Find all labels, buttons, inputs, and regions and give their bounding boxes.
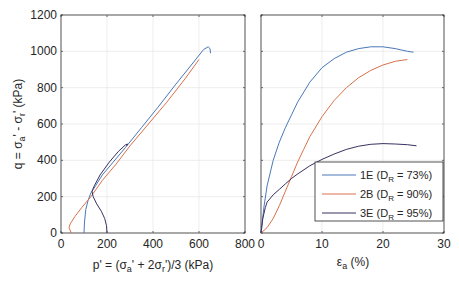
x-tick-label: 0 <box>58 237 65 251</box>
y-tick-label: 1200 <box>30 8 57 22</box>
y-tick-label: 400 <box>37 153 57 167</box>
x-tick-label: 10 <box>315 237 329 251</box>
x-tick-label: 800 <box>235 237 255 251</box>
right-x-ticks: 0102030 <box>258 237 451 251</box>
left-y-ticks: 020040060080010001200 <box>30 8 57 240</box>
x-tick-label: 30 <box>437 237 451 251</box>
y-tick-label: 800 <box>37 81 57 95</box>
x-tick-label: 400 <box>143 237 163 251</box>
x-tick-label: 0 <box>258 237 265 251</box>
left-x-ticks: 0200400600800 <box>58 237 256 251</box>
left-y-axis-label: q = σa' - σr' (kPa) <box>11 79 27 169</box>
y-tick-label: 200 <box>37 190 57 204</box>
y-tick-label: 600 <box>37 117 57 131</box>
y-tick-label: 0 <box>50 226 57 240</box>
x-tick-label: 20 <box>376 237 390 251</box>
right-plot: 0102030 εa (%) 1E (DR = 73%)2B (DR = 90%… <box>258 15 451 271</box>
figure: 0200400600800 020040060080010001200 p' =… <box>0 0 459 284</box>
x-tick-label: 600 <box>189 237 209 251</box>
right-x-axis-label: εa (%) <box>337 255 369 271</box>
left-x-axis-label: p' = (σa' + 2σr')/3 (kPa) <box>93 258 213 274</box>
legend: 1E (DR = 73%)2B (DR = 90%)3E (DR = 95%) <box>315 162 443 222</box>
x-tick-label: 200 <box>97 237 117 251</box>
left-plot: 0200400600800 020040060080010001200 p' =… <box>11 8 255 274</box>
y-tick-label: 1000 <box>30 44 57 58</box>
